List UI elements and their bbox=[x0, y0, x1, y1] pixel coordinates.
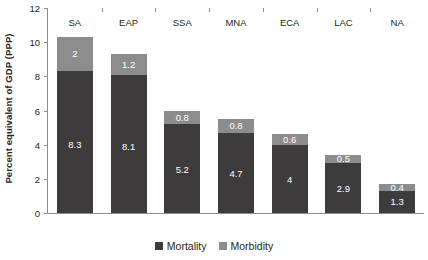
bar-segment-mortality[interactable]: 8.3 bbox=[57, 71, 93, 213]
chart-container: Percent equivalent of GDP (PPP) 12108642… bbox=[0, 0, 428, 260]
legend-item[interactable]: Mortality bbox=[155, 240, 207, 252]
bar-segment-morbidity[interactable]: 2 bbox=[57, 37, 93, 71]
x-axis-tick-mark bbox=[317, 8, 318, 12]
x-axis-tick-mark bbox=[102, 8, 103, 12]
y-axis-tick-label: 0 bbox=[16, 208, 40, 219]
bar-segment-mortality[interactable]: 8.1 bbox=[111, 75, 147, 213]
y-axis-title-text: Percent equivalent of GDP (PPP) bbox=[3, 33, 14, 183]
y-axis-tick-label: 4 bbox=[16, 139, 40, 150]
bar-segment-morbidity[interactable]: 0.8 bbox=[164, 111, 200, 125]
x-axis-tick-label: ECA bbox=[260, 17, 320, 28]
bar-value-label: 2.9 bbox=[337, 184, 350, 194]
x-axis-tick-label: LAC bbox=[313, 17, 373, 28]
x-axis-tick-label: EAP bbox=[99, 17, 159, 28]
x-axis-tick-label: SA bbox=[45, 17, 105, 28]
bar-segment-mortality[interactable]: 4 bbox=[272, 145, 308, 213]
bar-value-label: 2 bbox=[72, 49, 77, 59]
bar-segment-morbidity[interactable]: 1.2 bbox=[111, 54, 147, 75]
legend-swatch-icon bbox=[219, 242, 227, 250]
y-axis-tick-mark bbox=[44, 145, 48, 146]
bar-value-label: 1.3 bbox=[391, 197, 404, 207]
bar-segment-morbidity[interactable]: 0.8 bbox=[218, 119, 254, 133]
bar-segment-mortality[interactable]: 4.7 bbox=[218, 133, 254, 213]
bar-segment-morbidity[interactable]: 0.6 bbox=[272, 134, 308, 144]
y-axis-tick-mark bbox=[44, 76, 48, 77]
legend-label: Mortality bbox=[167, 240, 207, 252]
y-axis-tick-label: 12 bbox=[16, 3, 40, 14]
x-axis-tick-mark bbox=[370, 8, 371, 12]
bar-segment-mortality[interactable]: 1.3 bbox=[379, 191, 415, 213]
bar-value-label: 0.8 bbox=[176, 113, 189, 123]
bar-group[interactable]: 0.64 bbox=[272, 134, 308, 213]
y-axis-tick-mark bbox=[44, 8, 48, 9]
bar-segment-mortality[interactable]: 2.9 bbox=[325, 163, 361, 213]
bar-group[interactable]: 0.85.2 bbox=[164, 111, 200, 213]
x-axis-tick-mark bbox=[209, 8, 210, 12]
bar-value-label: 4.7 bbox=[229, 170, 242, 180]
y-axis-title: Percent equivalent of GDP (PPP) bbox=[0, 0, 16, 216]
plot-area: 121086420 28.31.28.10.85.20.84.70.640.52… bbox=[47, 8, 424, 214]
bar-group[interactable]: 0.52.9 bbox=[325, 155, 361, 213]
bar-segment-morbidity[interactable]: 0.5 bbox=[325, 155, 361, 164]
bar-value-label: 1.2 bbox=[122, 60, 135, 70]
legend-item[interactable]: Morbidity bbox=[219, 240, 274, 252]
legend-label: Morbidity bbox=[231, 240, 274, 252]
y-axis-tick-mark bbox=[44, 42, 48, 43]
bar-value-label: 8.1 bbox=[122, 142, 135, 152]
x-axis-tick-mark bbox=[263, 8, 264, 12]
bar-value-label: 5.2 bbox=[176, 166, 189, 176]
x-axis-tick-label: NA bbox=[367, 17, 427, 28]
x-axis-tick-label: SSA bbox=[152, 17, 212, 28]
y-axis-tick-mark bbox=[44, 179, 48, 180]
legend-swatch-icon bbox=[155, 242, 163, 250]
y-axis-tick-label: 8 bbox=[16, 71, 40, 82]
y-axis-tick-label: 6 bbox=[16, 105, 40, 116]
bar-group[interactable]: 28.3 bbox=[57, 37, 93, 213]
y-axis-tick-mark bbox=[44, 213, 48, 214]
bar-group[interactable]: 0.41.3 bbox=[379, 184, 415, 213]
y-axis-tick-label: 2 bbox=[16, 173, 40, 184]
x-axis-tick-mark bbox=[155, 8, 156, 12]
y-axis-tick-mark bbox=[44, 111, 48, 112]
bar-group[interactable]: 1.28.1 bbox=[111, 54, 147, 213]
y-axis-tick-label: 10 bbox=[16, 37, 40, 48]
bar-segment-morbidity[interactable]: 0.4 bbox=[379, 184, 415, 191]
bar-value-label: 0.8 bbox=[229, 121, 242, 131]
bar-group[interactable]: 0.84.7 bbox=[218, 119, 254, 213]
bar-segment-mortality[interactable]: 5.2 bbox=[164, 124, 200, 213]
x-axis-tick-label: MNA bbox=[206, 17, 266, 28]
bar-value-label: 0.6 bbox=[283, 135, 296, 145]
chart-legend: MortalityMorbidity bbox=[0, 240, 428, 252]
bar-value-label: 4 bbox=[287, 175, 292, 185]
bar-value-label: 8.3 bbox=[68, 140, 81, 150]
